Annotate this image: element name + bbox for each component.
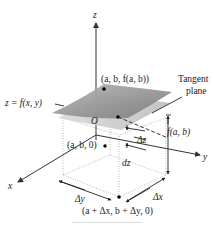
y-axis [96, 135, 200, 155]
point-surface-label: (a, b, f(a, b)) [101, 74, 149, 85]
delta-x-label: Δx [152, 192, 164, 202]
tangent-plane-diagram: z x y O (a, b, f(a, b)) z = f(x, y) Tang… [0, 0, 214, 225]
z-axis-label: z [92, 10, 97, 20]
point-base-label: (a, b, 0) [67, 140, 97, 151]
f-ab-label: f(a, b) [167, 127, 190, 138]
f-ab-dimension [166, 115, 171, 174]
point-corner-label: (a + Δx, b + Δy, 0) [82, 206, 153, 217]
tangent-plane-label-2: plane [186, 86, 207, 96]
y-axis-label: y [202, 152, 208, 162]
origin-label: O [91, 116, 98, 126]
surface-label: z = f(x, y) [4, 98, 42, 109]
delta-y-label: Δy [74, 194, 86, 204]
point-corner [117, 195, 121, 199]
point-surface [102, 87, 106, 91]
dz-label: dz [122, 158, 131, 168]
surface [52, 84, 172, 118]
delta-z-label: Δz [136, 135, 147, 145]
baseline-rule [72, 222, 142, 223]
x-axis-label: x [7, 181, 13, 191]
tangent-plane-label: Tangent [178, 74, 209, 84]
point-base [103, 144, 106, 147]
